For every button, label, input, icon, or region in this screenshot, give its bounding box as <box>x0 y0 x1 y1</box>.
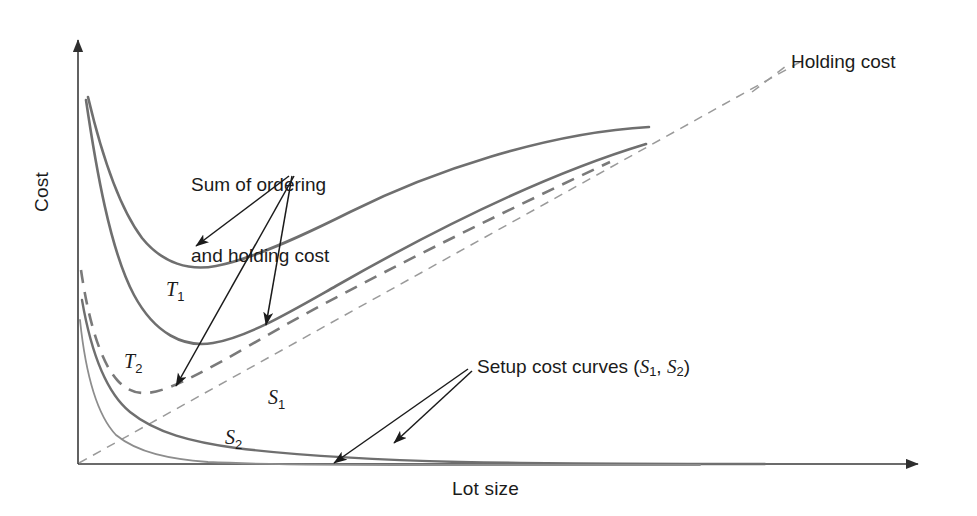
s1-curve-label-letter: S <box>268 386 278 408</box>
s2-curve-label: S2 <box>225 425 242 453</box>
setup-cost-annotation-s2: S <box>667 356 677 377</box>
setup-cost-annotation-separator: , <box>656 356 667 377</box>
t2-curve-label-letter: T <box>124 350 135 372</box>
s1-curve-label: S1 <box>268 385 285 413</box>
t1-curve <box>86 100 646 344</box>
chart-canvas <box>0 0 977 516</box>
setup-cost-annotation-s1: S <box>640 356 650 377</box>
setup-cost-annotation-prefix: Setup cost curves ( <box>477 356 640 377</box>
s2-curve-label-subscript: 2 <box>235 437 242 452</box>
holding-cost-leader <box>752 66 786 92</box>
sum-cost-annotation-line2: and holding cost <box>191 244 329 268</box>
t1-curve-label: T1 <box>166 277 184 305</box>
y-axis-title: Cost <box>30 172 54 212</box>
t1-curve-label-letter: T <box>166 278 177 300</box>
s1-curve <box>82 300 765 464</box>
holding-cost-line <box>79 62 800 463</box>
s2-curve-label-letter: S <box>225 426 235 448</box>
setup-cost-arrow-to-s1 <box>394 371 472 443</box>
setup-cost-arrow-group <box>334 369 472 463</box>
setup-cost-arrow-to-s2 <box>334 369 468 463</box>
t1-curve-label-subscript: 1 <box>177 289 184 304</box>
s2-curve <box>80 320 700 465</box>
s1-curve-label-subscript: 1 <box>278 397 285 412</box>
setup-cost-annotation-suffix: ) <box>684 356 690 377</box>
t2-curve-label-subscript: 2 <box>135 361 142 376</box>
sum-cost-annotation: Sum of ordering and holding cost <box>191 126 329 314</box>
x-axis-title: Lot size <box>452 477 519 501</box>
inventory-cost-chart: Cost Lot size Sum of ordering and holdin… <box>0 0 977 516</box>
setup-cost-annotation-s2-subscript: 2 <box>676 364 683 379</box>
holding-cost-annotation: Holding cost <box>791 50 896 74</box>
t2-curve-label: T2 <box>124 349 142 377</box>
sum-cost-annotation-line1: Sum of ordering <box>191 173 329 197</box>
setup-cost-annotation: Setup cost curves (S1, S2) <box>477 355 690 380</box>
